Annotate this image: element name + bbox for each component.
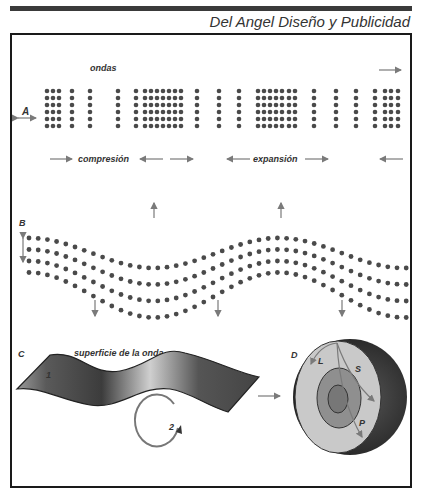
wave-label-l: L bbox=[318, 356, 324, 366]
wave-label-s: S bbox=[355, 364, 361, 374]
marker-2: 2 bbox=[168, 422, 174, 432]
panel-b: B bbox=[19, 203, 409, 320]
expansion-label: expansión bbox=[253, 154, 298, 164]
panel-d: D L S P bbox=[291, 339, 407, 455]
panel-d-letter: D bbox=[291, 350, 298, 360]
earth-inner-core bbox=[328, 385, 348, 413]
panel-a-title: ondas bbox=[90, 63, 117, 73]
compression-label: compresión bbox=[78, 154, 130, 164]
panel-c-title: superficie de la onda bbox=[74, 348, 164, 358]
panel-c-letter: C bbox=[18, 349, 25, 359]
rotation-circle bbox=[135, 394, 178, 446]
marker-1: 1 bbox=[46, 370, 51, 380]
panel-c: C superficie de la onda 1 2 bbox=[17, 348, 280, 446]
wave-surface-sheet bbox=[17, 351, 259, 412]
wave-label-p: P bbox=[359, 418, 366, 428]
particle-grid bbox=[45, 89, 401, 129]
panel-b-letter: B bbox=[19, 218, 26, 228]
seismic-waves-figure: A ondas compresión expansión B C superfi… bbox=[0, 0, 421, 496]
panel-a: A ondas compresión expansión bbox=[18, 63, 403, 164]
panel-a-letter: A bbox=[21, 106, 29, 117]
